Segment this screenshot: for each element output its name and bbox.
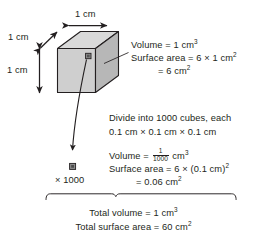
small-cube-volume-unit: cm: [170, 151, 185, 161]
small-cube-volume-line: Volume = 11000 cm3: [109, 148, 229, 163]
big-cube-surface-exponent: 2: [233, 51, 237, 58]
big-cube-surface-line: Surface area = 6 × 1 cm2: [131, 53, 237, 65]
big-cube-shape: [58, 32, 119, 93]
divide-note-line-1: Divide into 1000 cubes, each: [109, 113, 231, 125]
big-cube-leader-line: [104, 53, 129, 64]
total-volume-text: Total volume = 1 cm: [89, 208, 174, 218]
height-dimension-label: 1 cm: [7, 65, 28, 77]
magnify-arrow: [73, 60, 87, 151]
big-cube-volume-exponent: 3: [194, 38, 198, 45]
width-dimension-label: 1 cm: [75, 9, 96, 21]
small-cube-surface-text: Surface area = 6 × (0.1 cm): [109, 164, 225, 174]
total-volume-line: Total volume = 1 cm3: [0, 208, 267, 220]
total-surface-text: Total surface area = 60 cm: [75, 222, 187, 232]
divide-note-line-2: 0.1 cm × 0.1 cm × 0.1 cm: [109, 127, 231, 139]
big-cube-surface-result-text: = 6 cm: [158, 66, 187, 76]
total-volume-exponent: 3: [174, 206, 178, 213]
total-surface-exponent: 2: [188, 220, 192, 227]
fraction-denominator: 1000: [153, 156, 169, 163]
totals-block: Total volume = 1 cm3 Total surface area …: [0, 208, 267, 233]
total-surface-line: Total surface area = 60 cm2: [0, 222, 267, 234]
small-cube-volume-fraction: 11000: [153, 148, 169, 163]
small-cube-volume-label: Volume =: [109, 151, 152, 161]
small-cube-surface-line: Surface area = 6 × (0.1 cm)2: [109, 164, 229, 176]
small-cube-surface-result-text: = 0.06 cm: [136, 177, 178, 187]
small-cube-shape: [70, 163, 76, 169]
divide-note: Divide into 1000 cubes, each 0.1 cm × 0.…: [109, 113, 231, 138]
highlighted-subcube: [86, 53, 91, 58]
small-cube-volume-exponent: 3: [185, 149, 189, 156]
cube-surface-area-diagram: 1 cm 1 cm 1 cm Volume = 1 cm3 Surface ar…: [0, 0, 267, 240]
big-cube-surface-result-line: = 6 cm2: [131, 66, 237, 78]
big-cube-volume-text: Volume = 1 cm: [131, 40, 194, 50]
multiplier-label: × 1000: [55, 175, 84, 187]
big-cube-volume-line: Volume = 1 cm3: [131, 40, 237, 52]
depth-dimension-label: 1 cm: [8, 32, 29, 44]
small-cube-surface-exponent: 2: [225, 162, 229, 169]
small-cube-annotation: Volume = 11000 cm3 Surface area = 6 × (0…: [109, 148, 229, 189]
small-cube-surface-result-line: = 0.06 cm2: [109, 177, 229, 189]
small-cube-surface-result-exponent: 2: [178, 175, 182, 182]
big-cube-surface-text: Surface area = 6 × 1 cm: [131, 53, 233, 63]
big-cube-annotation: Volume = 1 cm3 Surface area = 6 × 1 cm2 …: [131, 40, 237, 78]
depth-dimension-arrow: [41, 32, 58, 48]
big-cube-surface-result-exponent: 2: [187, 64, 191, 71]
summary-brace: [46, 194, 236, 200]
